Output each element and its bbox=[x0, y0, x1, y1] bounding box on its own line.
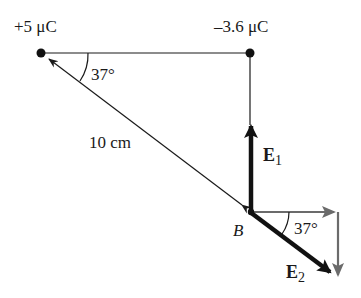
e1-label: E1 bbox=[263, 145, 282, 168]
bottom-angle-label: 37° bbox=[294, 219, 318, 238]
distance-arrow bbox=[49, 59, 242, 205]
positive-charge-label: +5 μC bbox=[14, 17, 57, 36]
angle-arc-bottom bbox=[282, 212, 289, 234]
top-angle-label: 37° bbox=[91, 65, 115, 84]
negative-charge-dot bbox=[246, 49, 255, 58]
positive-charge-dot bbox=[37, 49, 46, 58]
point-b-dot bbox=[248, 209, 254, 215]
point-b-label: B bbox=[233, 221, 244, 240]
distance-label: 10 cm bbox=[89, 133, 131, 152]
negative-charge-label: –3.6 μC bbox=[213, 17, 268, 36]
e2-label: E2 bbox=[286, 262, 305, 285]
angle-arc-top bbox=[80, 53, 88, 81]
field-diagram: +5 μC –3.6 μC 37° 10 cm B 37° E1 E2 bbox=[0, 0, 361, 298]
